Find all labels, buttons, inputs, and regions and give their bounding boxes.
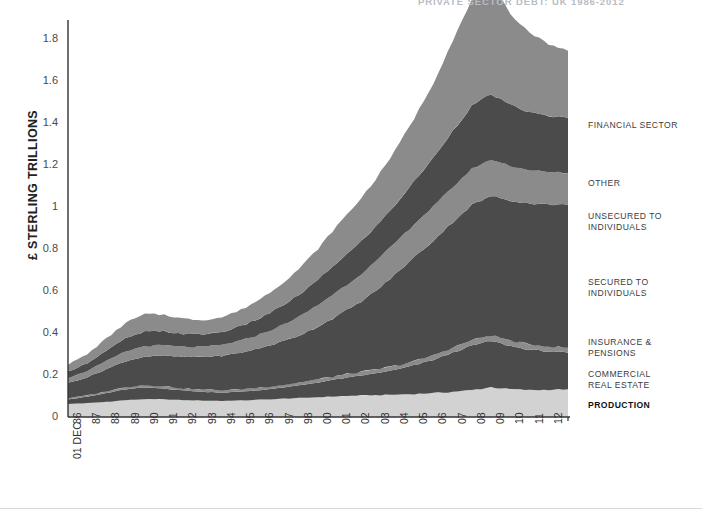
bottom-divider	[0, 508, 702, 509]
legend-item-secured-to-individuals[interactable]: SECURED TO INDIVIDUALS	[588, 277, 649, 299]
x-axis-start-date-label: 01 DEC	[72, 422, 82, 459]
x-axis-tick-label: 95	[245, 412, 255, 424]
x-axis-tick-label: 94	[226, 412, 236, 424]
y-axis-tick-label: 1	[28, 201, 58, 212]
x-axis-tick-label: 06	[437, 412, 447, 424]
y-axis-tick-label: 1.6	[28, 75, 58, 86]
y-axis-tick-label: 0.4	[28, 327, 58, 338]
y-axis-tick-label: 0.2	[28, 369, 58, 380]
stacked-area-plot	[0, 0, 702, 517]
x-axis-tick-label: 91	[168, 412, 178, 424]
top-headline: PRIVATE SECTOR DEBT: UK 1986-2012	[418, 0, 688, 5]
legend-item-insurance-pensions[interactable]: INSURANCE & PENSIONS	[588, 337, 652, 359]
y-axis-tick-label: 1.2	[28, 159, 58, 170]
legend-item-commercial-real-estate[interactable]: COMMERCIAL REAL ESTATE	[588, 369, 651, 391]
x-axis-tick-label: 89	[130, 412, 140, 424]
x-axis-tick-label: 97	[284, 412, 294, 424]
x-axis-tick-label: 88	[110, 412, 120, 424]
x-axis-tick-label: 93	[207, 412, 217, 424]
y-axis-tick-label: 0	[28, 411, 58, 422]
x-axis-tick-label: 01	[341, 412, 351, 424]
x-axis-tick-label: 04	[399, 412, 409, 424]
x-axis-tick-label: 09	[495, 412, 505, 424]
x-axis-tick-label: 98	[303, 412, 313, 424]
chart-root: PRIVATE SECTOR DEBT: UK 1986-2012 £ STER…	[0, 0, 702, 517]
x-axis-tick-label: 07	[457, 412, 467, 424]
x-axis-tick-label: 92	[187, 412, 197, 424]
x-axis-tick-label: 87	[91, 412, 101, 424]
x-axis-tick-label: 02	[360, 412, 370, 424]
x-axis-tick-label: 08	[476, 412, 486, 424]
legend-item-unsecured-to-individuals[interactable]: UNSECURED TO INDIVIDUALS	[588, 211, 662, 233]
legend-item-production[interactable]: PRODUCTION	[588, 400, 650, 411]
y-axis-tick-label: 1.4	[28, 117, 58, 128]
x-axis-tick-label: 10	[514, 412, 524, 424]
y-axis-tick-label: 0.6	[28, 285, 58, 296]
x-axis-tick-label: 00	[322, 412, 332, 424]
area-bands	[68, 0, 568, 417]
x-axis-tick-label: 11	[534, 413, 544, 424]
y-axis-tick-label: 1.8	[28, 33, 58, 44]
legend-item-other[interactable]: OTHER	[588, 178, 620, 189]
x-axis-tick-label: 96	[264, 412, 274, 424]
y-axis-tick-label: 0.8	[28, 243, 58, 254]
x-axis-tick-label: 03	[380, 412, 390, 424]
legend-item-financial-sector[interactable]: FINANCIAL SECTOR	[588, 120, 678, 131]
x-axis-tick-label: 05	[418, 412, 428, 424]
x-axis-tick-label: 90	[149, 412, 159, 424]
x-axis-tick-label: 12	[553, 412, 563, 424]
